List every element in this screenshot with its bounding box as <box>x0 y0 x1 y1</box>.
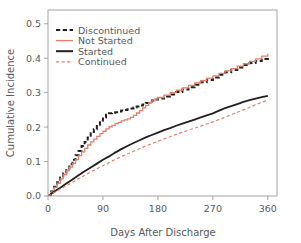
chart-canvas: 090180270360 0.00.10.20.30.40.5 Disconti… <box>0 0 301 243</box>
x-axis-title: Days After Discharge <box>110 227 215 238</box>
y-tick-label-0.2: 0.2 <box>26 122 41 133</box>
y-axis-title: Cumulative Incidence <box>5 49 16 157</box>
legend-label-not-started: Not Started <box>78 35 133 46</box>
legend-label-continued: Continued <box>78 56 127 67</box>
legend-label-discontinued: Discontinued <box>78 25 140 36</box>
x-tick-label-180: 180 <box>149 203 167 214</box>
y-tick-label-0.4: 0.4 <box>26 53 41 64</box>
cumulative-incidence-figure: 090180270360 0.00.10.20.30.40.5 Disconti… <box>0 0 301 243</box>
y-tick-label-0.5: 0.5 <box>26 18 41 29</box>
legend-label-started: Started <box>78 46 113 57</box>
y-tick-label-0.3: 0.3 <box>26 87 41 98</box>
y-tick-label-0.0: 0.0 <box>26 190 41 201</box>
x-tick-label-270: 270 <box>204 203 222 214</box>
y-tick-label-0.1: 0.1 <box>26 156 41 167</box>
x-tick-label-360: 360 <box>259 203 277 214</box>
x-tick-label-0: 0 <box>45 203 51 214</box>
x-tick-label-90: 90 <box>97 203 109 214</box>
